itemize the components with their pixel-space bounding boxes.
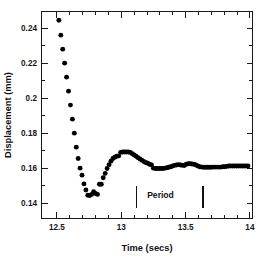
y-tick-label: 0.14 <box>21 199 37 208</box>
data-point <box>95 192 100 197</box>
data-point <box>76 156 81 161</box>
x-tick-label: 13.5 <box>178 223 194 232</box>
data-point <box>72 131 77 136</box>
period-annotation: Period <box>136 186 203 208</box>
y-tick-label: 0.18 <box>21 129 37 138</box>
data-point <box>70 117 75 122</box>
data-point <box>82 181 87 186</box>
period-label-text: Period <box>147 190 174 200</box>
data-point <box>101 175 106 180</box>
y-tick-label: 0.16 <box>21 164 37 173</box>
data-point <box>246 164 251 169</box>
data-point <box>56 18 61 23</box>
x-tick-label: 13 <box>117 223 127 232</box>
data-point <box>62 61 67 66</box>
data-point <box>64 75 69 80</box>
data-point <box>66 89 71 94</box>
x-tick-label: 12.5 <box>49 223 65 232</box>
data-point <box>60 47 65 52</box>
x-axis-minor-ticks <box>70 12 237 219</box>
data-point <box>68 103 73 108</box>
displacement-vs-time-plot: 0.240.220.20.180.160.14 12.51313.514 Per… <box>0 0 269 265</box>
data-point <box>58 33 63 38</box>
y-tick-label: 0.24 <box>21 24 37 33</box>
x-axis-title: Time (secs) <box>122 243 173 253</box>
data-point <box>80 173 85 178</box>
data-point <box>74 145 79 150</box>
y-axis-title: Displacement (mm) <box>3 72 13 158</box>
y-axis-major-ticks <box>42 28 253 203</box>
x-axis-major-ticks <box>57 12 250 219</box>
data-point <box>99 182 104 187</box>
plot-frame <box>42 12 253 219</box>
y-tick-label: 0.22 <box>21 59 37 68</box>
figure-container: 0.240.220.20.180.160.14 12.51313.514 Per… <box>0 0 269 265</box>
data-point-series <box>56 18 250 198</box>
y-tick-label: 0.2 <box>26 94 38 103</box>
y-axis-tick-labels: 0.240.220.20.180.160.14 <box>21 24 37 208</box>
data-point <box>78 166 83 171</box>
x-axis-tick-labels: 12.51313.514 <box>49 223 255 232</box>
data-point <box>83 188 88 193</box>
data-point <box>103 171 108 176</box>
x-tick-label: 14 <box>245 223 255 232</box>
